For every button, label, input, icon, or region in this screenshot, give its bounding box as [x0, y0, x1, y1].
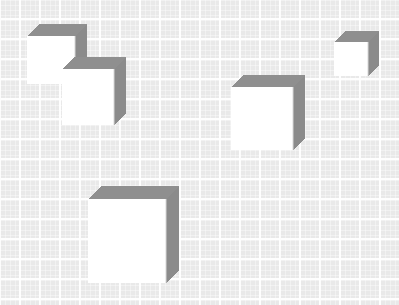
- cube-bottom-right-face: [166, 186, 179, 283]
- cube-top-left-lower-right-face: [114, 57, 126, 125]
- cube-top-left-lower-front-face: [62, 69, 114, 125]
- cube-top-right-front-face: [334, 42, 368, 76]
- cube-bottom: [88, 186, 181, 285]
- cube-bottom-front-face: [88, 199, 166, 283]
- cube-top-left-lower: [62, 57, 128, 127]
- cube-bottom-top-face: [88, 186, 179, 199]
- cube-top-right: [334, 31, 381, 78]
- cube-center-top-face: [231, 75, 305, 87]
- cube-scene: [0, 0, 399, 305]
- cube-center: [231, 75, 307, 152]
- cube-center-front-face: [231, 87, 293, 150]
- cube-center-right-face: [293, 75, 305, 150]
